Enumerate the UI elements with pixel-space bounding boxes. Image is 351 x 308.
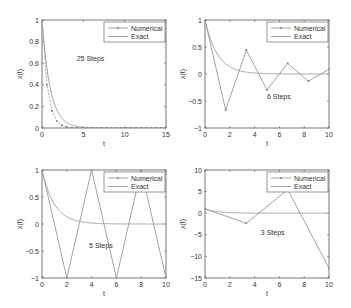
numerical-marker [160, 127, 162, 129]
y-axis-label: x(t) [179, 219, 187, 229]
legend: NumericalExact [104, 22, 165, 42]
numerical-marker [106, 127, 108, 129]
numerical-marker [287, 62, 289, 64]
numerical-marker [86, 127, 88, 129]
x-tick-label: 8 [139, 281, 143, 288]
x-tick-label: 10 [121, 131, 129, 138]
x-tick-label: 10 [162, 281, 170, 288]
numerical-marker [140, 127, 142, 129]
x-tick-label: 2 [65, 281, 69, 288]
y-tick-label: 0 [35, 221, 39, 228]
x-tick-label: 8 [302, 281, 306, 288]
y-tick-label: −0.5 [25, 248, 39, 255]
x-tick-label: 15 [162, 131, 170, 138]
x-tick-label: 4 [90, 281, 94, 288]
y-tick-label: −15 [190, 275, 202, 282]
numerical-marker [307, 80, 309, 82]
numerical-marker [328, 68, 330, 70]
numerical-marker [91, 169, 93, 171]
x-tick-label: 0 [203, 281, 207, 288]
legend: NumericalExact [267, 22, 328, 42]
numerical-marker [81, 127, 83, 129]
y-tick-label: −1 [31, 275, 39, 282]
y-tick-label: −10 [190, 253, 202, 260]
legend-exact-label: Exact [294, 183, 312, 190]
numerical-marker [225, 109, 227, 111]
x-tick-label: 10 [325, 131, 333, 138]
y-tick-label: −5 [194, 231, 202, 238]
legend-numerical-marker [117, 177, 119, 179]
subplot-6-steps: 0246810−1−0.500.51tx(t)6 StepsNumericalE… [179, 17, 333, 148]
steps-annotation: 3 Steps [261, 229, 285, 237]
y-tick-label: 0.6 [29, 60, 39, 67]
y-tick-label: 0.4 [29, 81, 39, 88]
x-tick-label: 2 [228, 131, 232, 138]
y-tick-label: −0.5 [188, 98, 202, 105]
numerical-marker [66, 277, 68, 279]
legend-numerical-label: Numerical [131, 25, 163, 32]
numerical-marker [204, 208, 206, 210]
numerical-marker [140, 169, 142, 171]
legend-numerical-label: Numerical [294, 175, 326, 182]
numerical-marker [165, 127, 167, 129]
y-tick-label: 0.5 [192, 44, 202, 51]
y-tick-label: 0.2 [29, 103, 39, 110]
steps-annotation: 6 Steps [267, 93, 291, 101]
numerical-marker [96, 127, 98, 129]
x-tick-label: 6 [114, 281, 118, 288]
x-tick-label: 2 [228, 281, 232, 288]
y-tick-label: 0 [198, 71, 202, 78]
numerical-marker [76, 127, 78, 129]
numerical-marker [130, 127, 132, 129]
legend-exact-label: Exact [294, 33, 312, 40]
legend-numerical-marker [280, 27, 282, 29]
x-axis-label: t [266, 290, 268, 297]
x-tick-label: 4 [253, 131, 257, 138]
subplot-5-steps: 0246810−1−0.500.51tx(t)5 StepsNumericalE… [16, 167, 170, 298]
numerical-marker [150, 127, 152, 129]
numerical-marker [120, 127, 122, 129]
x-tick-label: 8 [302, 131, 306, 138]
y-tick-label: 0.5 [29, 194, 39, 201]
steps-annotation: 5 Steps [89, 242, 113, 250]
x-tick-label: 0 [40, 131, 44, 138]
y-tick-label: 5 [198, 188, 202, 195]
y-tick-label: 0 [35, 125, 39, 132]
numerical-marker [101, 127, 103, 129]
numerical-marker [145, 127, 147, 129]
x-axis-label: t [103, 140, 105, 147]
numerical-marker [111, 127, 113, 129]
y-tick-label: 1 [35, 17, 39, 24]
y-tick-label: 0.8 [29, 38, 39, 45]
y-tick-label: 0 [198, 210, 202, 217]
legend-exact-label: Exact [131, 183, 149, 190]
figure: 05101500.20.40.60.81tx(t)25 StepsNumeric… [0, 0, 351, 308]
numerical-marker [41, 19, 43, 21]
legend-exact-label: Exact [131, 33, 149, 40]
x-tick-label: 10 [325, 281, 333, 288]
numerical-marker [46, 84, 48, 86]
y-tick-label: 1 [35, 167, 39, 174]
numerical-marker [116, 127, 118, 129]
legend: NumericalExact [267, 172, 328, 192]
y-tick-label: −1 [194, 125, 202, 132]
x-axis-label: t [103, 290, 105, 297]
x-tick-label: 6 [277, 281, 281, 288]
numerical-marker [66, 126, 68, 128]
legend-numerical-label: Numerical [131, 175, 163, 182]
numerical-marker [245, 49, 247, 51]
y-axis-label: x(t) [16, 219, 24, 229]
x-tick-label: 6 [277, 131, 281, 138]
x-tick-label: 0 [40, 281, 44, 288]
legend-numerical-marker [117, 27, 119, 29]
numerical-marker [51, 110, 53, 112]
numerical-marker [204, 19, 206, 21]
numerical-marker [155, 127, 157, 129]
numerical-marker [116, 277, 118, 279]
numerical-marker [125, 127, 127, 129]
x-axis-label: t [266, 140, 268, 147]
numerical-marker [61, 124, 63, 126]
y-tick-label: 1 [198, 17, 202, 24]
numerical-marker [328, 267, 330, 269]
numerical-marker [135, 127, 137, 129]
